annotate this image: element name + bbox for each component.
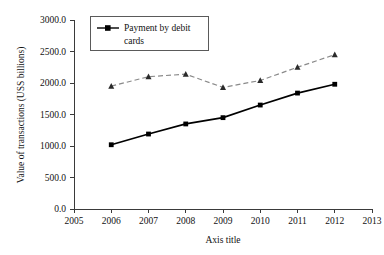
legend-label: Payment by debit (124, 23, 191, 33)
legend-border (90, 16, 208, 50)
x-axis-tick-label: 2007 (139, 216, 158, 226)
x-axis-title: Axis title (205, 235, 240, 245)
line-chart: 0.0500.01000.01500.02000.02500.03000.0 2… (0, 0, 384, 255)
y-axis-tick-label: 2500.0 (40, 47, 66, 57)
y-axis-tick-label: 2000.0 (40, 78, 66, 88)
series-line-0 (111, 84, 335, 144)
data-point-marker (332, 82, 337, 87)
y-axis-tick-group: 0.0500.01000.01500.02000.02500.03000.0 (40, 15, 74, 214)
x-axis-tick-label: 2009 (214, 216, 233, 226)
x-axis-tick-label: 2013 (363, 216, 382, 226)
legend-marker-square-icon (105, 25, 111, 31)
x-axis-tick-label: 2006 (102, 216, 121, 226)
legend-label-wrap: cards (124, 36, 144, 46)
data-point-marker (258, 103, 263, 108)
y-axis-tick-label: 1500.0 (40, 110, 66, 120)
chart-legend: Payment by debit cards (90, 16, 208, 50)
y-axis-tick-label: 500.0 (45, 173, 67, 183)
data-point-marker (295, 91, 300, 96)
chart-container: 0.0500.01000.01500.02000.02500.03000.0 2… (0, 0, 384, 255)
y-axis-tick-label: 0.0 (54, 204, 66, 214)
x-axis-tick-label: 2010 (251, 216, 270, 226)
y-axis-title: Value of transactions (USS billions) (16, 47, 27, 184)
data-point-marker (146, 132, 151, 137)
data-point-marker (109, 142, 114, 147)
data-point-marker (332, 52, 338, 58)
x-axis-tick-group: 200520062007200820092010201120122013 (65, 209, 382, 226)
series-line-1 (111, 55, 335, 88)
x-axis-tick-label: 2005 (65, 216, 84, 226)
data-point-marker (183, 122, 188, 127)
y-axis-tick-label: 3000.0 (40, 15, 66, 25)
data-point-marker (221, 115, 226, 120)
x-axis-tick-label: 2012 (325, 216, 344, 226)
data-series-group (108, 52, 338, 148)
y-axis-tick-label: 1000.0 (40, 141, 66, 151)
x-axis-tick-label: 2011 (288, 216, 307, 226)
x-axis-tick-label: 2008 (176, 216, 195, 226)
